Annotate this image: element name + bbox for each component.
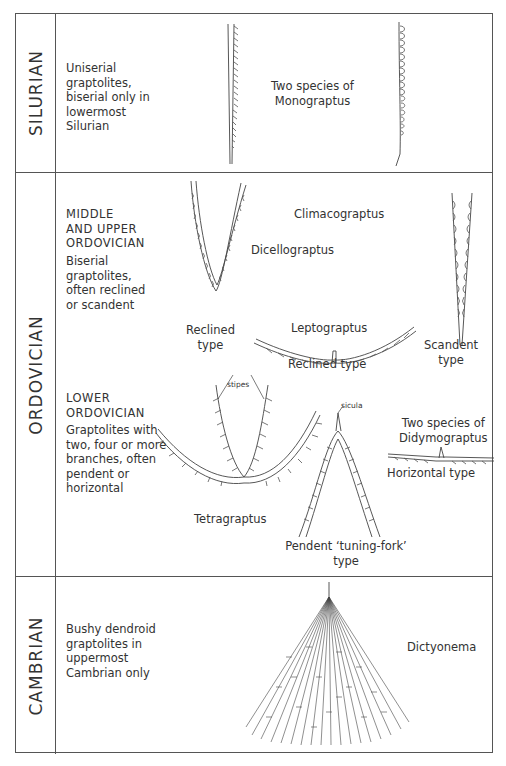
dictyonema-drawing	[16, 577, 494, 755]
dicellograptus-drawing	[191, 181, 246, 291]
period-row-ordovician: ORDOVICIAN MIDDLE AND UPPER ORDOVICIAN B…	[16, 172, 492, 576]
leptograptus-drawing	[254, 327, 416, 364]
tetragraptus-drawing	[156, 375, 322, 486]
graptolite-chart-table: SILURIAN Uniserial graptolites, biserial…	[15, 13, 493, 753]
monograptus-illustration	[16, 14, 494, 172]
period-row-cambrian: CAMBRIAN Bushy dendroid graptolites in u…	[16, 576, 492, 754]
pendent-didymograptus-drawing	[299, 406, 380, 537]
climacograptus-drawing	[452, 193, 472, 345]
period-row-silurian: SILURIAN Uniserial graptolites, biserial…	[16, 14, 492, 172]
horizontal-didymograptus-drawing	[388, 447, 494, 464]
ordovician-illustrations	[16, 173, 494, 577]
